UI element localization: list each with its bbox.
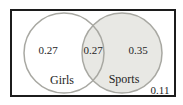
girls-label: Girls — [50, 73, 74, 87]
intersection-value: 0.27 — [83, 44, 103, 56]
venn-diagram: 0.27 0.27 0.35 Girls Sports 0.11 — [0, 0, 183, 105]
girls-only-value: 0.27 — [38, 44, 58, 56]
sports-only-value: 0.35 — [128, 44, 148, 56]
sports-label: Sports — [109, 72, 140, 86]
venn-diagram-canvas: 0.27 0.27 0.35 Girls Sports 0.11 — [0, 0, 183, 105]
outside-value: 0.11 — [151, 84, 170, 96]
